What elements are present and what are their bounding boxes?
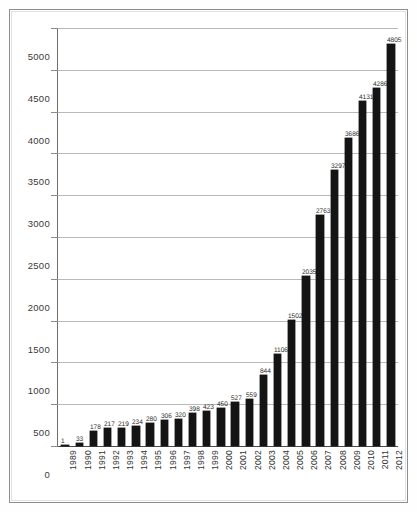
bar-group[interactable]: 527 xyxy=(231,28,238,446)
x-tick-label: 1999 xyxy=(210,450,220,470)
x-tick-label: 2006 xyxy=(309,450,319,470)
bar[interactable] xyxy=(359,101,366,446)
y-tick-label: 500 xyxy=(33,427,50,438)
bar-group[interactable]: 1 xyxy=(61,28,68,446)
x-tick-label: 2000 xyxy=(224,450,234,470)
y-tick-mark xyxy=(51,321,58,322)
bar[interactable] xyxy=(331,170,338,446)
bar[interactable] xyxy=(274,354,281,446)
bar-group[interactable]: 280 xyxy=(146,28,153,446)
bar[interactable] xyxy=(161,420,168,446)
bar-group[interactable]: 320 xyxy=(175,28,182,446)
y-tick-label: 2500 xyxy=(28,260,50,271)
bar[interactable] xyxy=(104,428,111,446)
bar[interactable] xyxy=(345,138,352,446)
bar[interactable] xyxy=(203,411,210,446)
bar[interactable] xyxy=(146,423,153,446)
bar[interactable] xyxy=(246,399,253,446)
x-tick-label: 2012 xyxy=(394,450,404,470)
bar-group[interactable]: 423 xyxy=(203,28,210,446)
bar-group[interactable]: 398 xyxy=(189,28,196,446)
bar-group[interactable]: 4286 xyxy=(373,28,380,446)
bar-value-label: 178 xyxy=(90,423,101,430)
x-tick-label: 2011 xyxy=(380,450,390,469)
bar[interactable] xyxy=(175,419,182,446)
x-axis-labels: 1989199019911992199319941995199619971998… xyxy=(58,446,398,502)
x-tick-label: 2004 xyxy=(281,450,291,470)
bar[interactable] xyxy=(217,408,224,446)
y-tick-mark xyxy=(51,153,58,154)
bar-group[interactable]: 2035 xyxy=(302,28,309,446)
y-tick-mark xyxy=(51,28,58,29)
bar-value-label: 2035 xyxy=(302,268,316,275)
x-tick-label: 1990 xyxy=(83,450,93,470)
y-tick-label: 1500 xyxy=(28,343,50,354)
y-tick-label: 5000 xyxy=(28,51,50,62)
bar-value-label: 844 xyxy=(260,367,271,374)
x-tick-label: 2007 xyxy=(323,450,333,470)
bar-value-label: 219 xyxy=(118,420,129,427)
y-tick-label: 0 xyxy=(44,469,50,480)
bar-value-label: 4286 xyxy=(373,80,387,87)
x-tick-label: 1996 xyxy=(168,450,178,470)
bar-value-label: 559 xyxy=(246,391,257,398)
x-tick-label: 1993 xyxy=(125,450,135,470)
bar-group[interactable]: 559 xyxy=(246,28,253,446)
y-tick-label: 3500 xyxy=(28,176,50,187)
bar-group[interactable]: 3297 xyxy=(331,28,338,446)
bar-value-label: 4131 xyxy=(359,93,373,100)
bar-group[interactable]: 33 xyxy=(76,28,83,446)
plot-area: 1331782172192342803063203984234505275598… xyxy=(58,28,398,446)
bar-value-label: 527 xyxy=(231,394,242,401)
bar-group[interactable]: 219 xyxy=(118,28,125,446)
x-tick-label: 1992 xyxy=(111,450,121,470)
bar[interactable] xyxy=(189,413,196,446)
y-tick-mark xyxy=(51,362,58,363)
bar-group[interactable]: 4131 xyxy=(359,28,366,446)
bar-group[interactable]: 4805 xyxy=(387,28,394,446)
bar[interactable] xyxy=(260,375,267,446)
y-tick-mark xyxy=(51,446,58,447)
y-tick-label: 1000 xyxy=(28,385,50,396)
bar-value-label: 306 xyxy=(161,412,172,419)
y-tick-label: 4000 xyxy=(28,134,50,145)
bar-group[interactable]: 217 xyxy=(104,28,111,446)
y-tick-mark xyxy=(51,112,58,113)
chart-figure: 0500100015002000250030003500400045005000… xyxy=(0,0,417,512)
bar[interactable] xyxy=(132,426,139,446)
bar-group[interactable]: 178 xyxy=(90,28,97,446)
bar[interactable] xyxy=(231,402,238,446)
bar[interactable] xyxy=(387,44,394,446)
bar-group[interactable]: 844 xyxy=(260,28,267,446)
x-tick-label: 1995 xyxy=(153,450,163,470)
bar-group[interactable]: 450 xyxy=(217,28,224,446)
bar-value-label: 3686 xyxy=(345,130,359,137)
bar-group[interactable]: 1106 xyxy=(274,28,281,446)
bar[interactable] xyxy=(316,215,323,446)
bar-value-label: 280 xyxy=(146,415,157,422)
x-tick-label: 2001 xyxy=(238,450,248,470)
bar-group[interactable]: 1502 xyxy=(288,28,295,446)
y-tick-mark xyxy=(51,70,58,71)
bar[interactable] xyxy=(118,428,125,446)
y-tick-label: 2000 xyxy=(28,301,50,312)
x-tick-label: 2003 xyxy=(267,450,277,470)
x-tick-label: 1991 xyxy=(97,450,107,470)
bar-value-label: 320 xyxy=(175,411,186,418)
bar-value-label: 33 xyxy=(76,435,83,442)
bar[interactable] xyxy=(288,320,295,446)
bar[interactable] xyxy=(90,431,97,446)
bar[interactable] xyxy=(373,88,380,446)
x-tick-label: 2005 xyxy=(295,450,305,470)
bar-value-label: 423 xyxy=(203,403,214,410)
bar-group[interactable]: 234 xyxy=(132,28,139,446)
y-tick-mark xyxy=(51,279,58,280)
y-tick-mark xyxy=(51,404,58,405)
x-tick-label: 1989 xyxy=(68,450,78,470)
bar-group[interactable]: 3686 xyxy=(345,28,352,446)
bar[interactable] xyxy=(302,276,309,446)
bar-group[interactable]: 2763 xyxy=(316,28,323,446)
bar-value-label: 3297 xyxy=(331,162,345,169)
bar-group[interactable]: 306 xyxy=(161,28,168,446)
bar-value-label: 2763 xyxy=(316,207,330,214)
